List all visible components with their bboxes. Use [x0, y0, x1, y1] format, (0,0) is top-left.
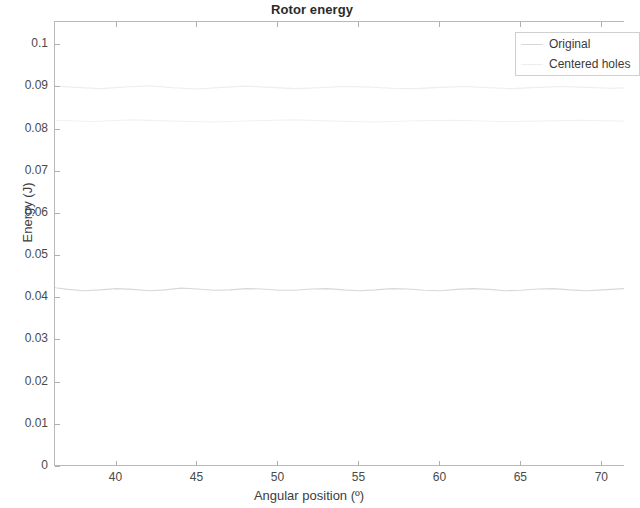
- x-tick-label: 70: [581, 470, 621, 484]
- legend-item-centered-holes[interactable]: Centered holes: [516, 54, 640, 75]
- chart-title: Rotor energy: [0, 2, 624, 17]
- x-tick-mark: [439, 461, 440, 466]
- y-tick-mark: [55, 44, 60, 45]
- y-axis-label: Energy (J): [20, 133, 35, 293]
- x-tick-label: 60: [419, 470, 459, 484]
- x-tick-mark-top: [116, 22, 117, 27]
- y-tick-mark: [55, 255, 60, 256]
- x-tick-mark-top: [358, 22, 359, 27]
- y-tick-label: 0.1: [4, 36, 48, 50]
- x-tick-label: 55: [338, 470, 378, 484]
- series-line: [55, 120, 624, 122]
- x-tick-mark-top: [196, 22, 197, 27]
- y-tick-label: 0: [4, 458, 48, 472]
- x-tick-label: 50: [257, 470, 297, 484]
- y-tick-mark: [55, 339, 60, 340]
- y-tick-label: 0.09: [4, 78, 48, 92]
- y-tick-mark: [55, 86, 60, 87]
- x-tick-mark: [358, 461, 359, 466]
- x-tick-mark: [601, 461, 602, 466]
- chart-legend[interactable]: Original Centered holes: [515, 32, 640, 76]
- y-tick-label: 0.03: [4, 331, 48, 345]
- x-tick-mark-top: [601, 22, 602, 27]
- legend-swatch-centered-holes: [521, 64, 543, 65]
- x-tick-label: 45: [177, 470, 217, 484]
- x-tick-mark: [196, 461, 197, 466]
- x-tick-mark: [277, 461, 278, 466]
- plot-svg: [55, 22, 624, 466]
- legend-label-original: Original: [549, 37, 590, 51]
- y-tick-mark: [55, 424, 60, 425]
- x-tick-mark: [520, 461, 521, 466]
- legend-item-original[interactable]: Original: [516, 34, 640, 55]
- y-tick-mark: [55, 213, 60, 214]
- series-line: [55, 86, 624, 89]
- y-tick-mark: [55, 171, 60, 172]
- x-tick-mark-top: [520, 22, 521, 27]
- x-tick-mark-top: [439, 22, 440, 27]
- legend-swatch-original: [521, 44, 543, 45]
- legend-label-centered-holes: Centered holes: [549, 57, 630, 71]
- x-tick-mark: [116, 461, 117, 466]
- y-tick-mark: [55, 297, 60, 298]
- y-tick-mark: [55, 129, 60, 130]
- y-tick-label: 0.01: [4, 416, 48, 430]
- x-axis-label: Angular position (º): [54, 488, 564, 503]
- plot-area: [54, 21, 624, 466]
- x-tick-mark-top: [277, 22, 278, 27]
- x-tick-label: 65: [500, 470, 540, 484]
- y-tick-mark: [55, 466, 60, 467]
- y-tick-label: 0.02: [4, 374, 48, 388]
- y-tick-mark: [55, 382, 60, 383]
- x-tick-label: 40: [96, 470, 136, 484]
- series-line: [55, 288, 624, 291]
